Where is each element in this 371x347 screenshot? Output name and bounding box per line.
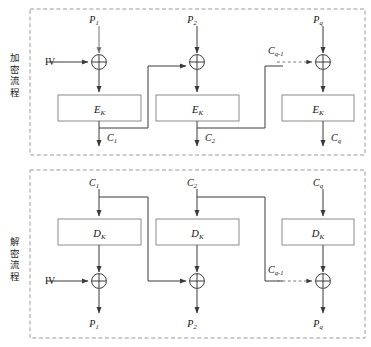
plaintext-q-output-label: Pq — [312, 318, 323, 330]
decryption-stage-2 — [156, 189, 283, 313]
cipher-1-input-label: C1 — [89, 177, 99, 189]
encrypt-box-2-sub: K — [197, 109, 203, 117]
encryption-stage-2 — [156, 26, 283, 146]
feedback-decrypt-sub: q-1 — [275, 269, 284, 276]
decryption-stage-1 — [46, 189, 186, 313]
cipher-q-input-sub: q — [320, 182, 324, 189]
plaintext-2-output-label: P2 — [186, 318, 197, 330]
decrypt-box-2-sub: K — [198, 233, 204, 241]
plaintext-1-out-sub: 1 — [95, 323, 98, 330]
plaintext-2-out-sub: 2 — [193, 323, 197, 330]
decryption-stage-3 — [277, 189, 354, 313]
cipher-1-label: C1 — [107, 132, 117, 144]
plaintext-q-sub: q — [319, 19, 323, 26]
encryption-section-label: 加密流程 — [8, 52, 22, 98]
plaintext-2-label: P2 — [186, 14, 197, 26]
cipher-2-sub: 2 — [212, 137, 216, 144]
feedback-label-encrypt: Cq-1 — [268, 45, 283, 57]
decryption-section-label: 解密流程 — [8, 236, 22, 282]
iv-label-decrypt: IV — [45, 276, 55, 286]
cipher-2-input-label: C2 — [187, 177, 198, 189]
cipher-1-sub: 1 — [114, 137, 117, 144]
decrypt-box-1-sub: K — [100, 233, 106, 241]
plaintext-q-out-sub: q — [319, 323, 323, 330]
cipher-1-input-sub: 1 — [96, 182, 99, 189]
cipher-2-label: C2 — [205, 132, 216, 144]
plaintext-q-base: P — [312, 14, 319, 25]
plaintext-1-output-label: P1 — [88, 318, 98, 330]
plaintext-1-sub: 1 — [95, 19, 98, 26]
encrypt-box-3-sub: K — [318, 109, 324, 117]
plaintext-2-sub: 2 — [193, 19, 197, 26]
cipher-q-input-label: Cq — [313, 177, 324, 189]
plaintext-q-label: Pq — [312, 14, 323, 26]
cipher-2-input-sub: 2 — [194, 182, 198, 189]
plaintext-2-out-base: P — [186, 318, 193, 329]
decrypt-box-3-sub: K — [318, 233, 324, 241]
plaintext-1-base: P — [88, 14, 95, 25]
plaintext-q-out-base: P — [312, 318, 319, 329]
cipher-q-sub: q — [338, 137, 342, 144]
plaintext-2-base: P — [186, 14, 193, 25]
feedback-encrypt-sub: q-1 — [275, 50, 284, 57]
cbc-mode-diagram: 加密流程 解密流程 — [0, 0, 371, 347]
feedback-label-decrypt: Cq-1 — [268, 264, 283, 276]
diagram-canvas: IV P1 P2 Pq EK EK EK C1 C2 Cq Cq-1 — [0, 0, 371, 347]
cipher-q-label: Cq — [331, 132, 342, 144]
plaintext-1-label: P1 — [88, 14, 98, 26]
encrypt-box-1-sub: K — [99, 109, 105, 117]
encryption-stage-1 — [46, 26, 186, 146]
encryption-stage-3 — [277, 26, 354, 146]
plaintext-1-out-base: P — [88, 318, 95, 329]
iv-label-encrypt: IV — [45, 57, 55, 67]
